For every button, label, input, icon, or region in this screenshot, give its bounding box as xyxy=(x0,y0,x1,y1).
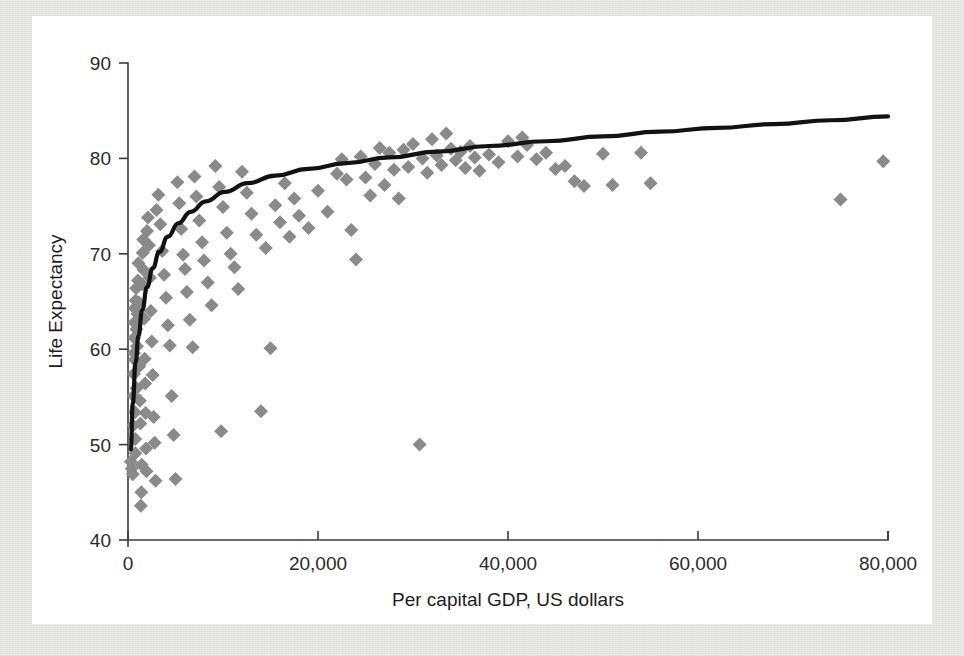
data-point xyxy=(378,178,392,192)
data-point xyxy=(245,207,259,221)
data-point xyxy=(180,285,194,299)
data-point xyxy=(473,164,487,178)
data-point xyxy=(205,298,219,312)
data-point xyxy=(292,209,306,223)
data-point xyxy=(349,253,363,267)
data-point xyxy=(283,230,297,244)
data-point xyxy=(254,404,268,418)
data-point xyxy=(186,340,200,354)
y-tick-label: 70 xyxy=(90,244,111,265)
data-point xyxy=(172,196,186,210)
data-point xyxy=(157,268,171,282)
data-point xyxy=(176,248,190,262)
data-point xyxy=(259,241,273,255)
data-point xyxy=(178,262,192,276)
data-point xyxy=(169,472,183,486)
scatter-plot: 405060708090 020,00040,00060,00080,000 P… xyxy=(32,16,932,624)
data-point xyxy=(344,223,358,237)
data-point xyxy=(302,221,316,235)
data-point xyxy=(151,188,165,202)
y-tick-label: 80 xyxy=(90,148,111,169)
x-axis-title: Per capital GDP, US dollars xyxy=(392,589,624,610)
data-point xyxy=(224,247,238,261)
data-point xyxy=(134,485,148,499)
data-point xyxy=(214,424,228,438)
data-point xyxy=(634,146,648,160)
data-point xyxy=(876,154,890,168)
data-point xyxy=(359,170,373,184)
data-point xyxy=(387,163,401,177)
data-point xyxy=(195,235,209,249)
data-point xyxy=(834,192,848,206)
data-point xyxy=(216,200,230,214)
trend-line xyxy=(131,116,888,449)
data-point xyxy=(231,282,245,296)
data-point xyxy=(606,178,620,192)
data-point xyxy=(235,165,249,179)
data-point xyxy=(183,313,197,327)
data-point xyxy=(188,170,202,184)
y-tick-label: 90 xyxy=(90,53,111,74)
figure-page: 405060708090 020,00040,00060,00080,000 P… xyxy=(0,0,964,656)
data-point xyxy=(363,189,377,203)
data-point xyxy=(439,127,453,141)
data-point xyxy=(197,253,211,267)
data-point xyxy=(413,438,427,452)
x-tick-label: 40,000 xyxy=(479,553,537,574)
data-point xyxy=(145,335,159,349)
data-point xyxy=(425,132,439,146)
y-tick-group: 405060708090 xyxy=(90,53,128,551)
y-tick-label: 40 xyxy=(90,530,111,551)
x-tick-group: 020,00040,00060,00080,000 xyxy=(123,531,917,574)
data-point xyxy=(163,338,177,352)
data-point xyxy=(273,215,287,229)
data-point xyxy=(167,428,181,442)
data-point xyxy=(249,228,263,242)
data-point xyxy=(492,155,506,169)
data-point xyxy=(208,159,222,173)
data-point xyxy=(192,213,206,227)
data-point xyxy=(278,176,292,190)
data-point xyxy=(596,147,610,161)
x-tick-label: 60,000 xyxy=(669,553,727,574)
data-point xyxy=(161,318,175,332)
data-point xyxy=(511,149,525,163)
data-point xyxy=(220,226,234,240)
data-point xyxy=(420,166,434,180)
data-point xyxy=(240,186,254,200)
data-point xyxy=(401,160,415,174)
x-tick-label: 20,000 xyxy=(289,553,347,574)
chart-figure: 405060708090 020,00040,00060,00080,000 P… xyxy=(32,16,932,624)
data-point xyxy=(165,389,179,403)
data-point xyxy=(149,474,163,488)
y-axis-title: Life Expectancy xyxy=(45,234,66,369)
data-point xyxy=(159,291,173,305)
data-point xyxy=(644,176,658,190)
data-point xyxy=(134,499,148,513)
data-point xyxy=(268,198,282,212)
data-point xyxy=(287,191,301,205)
data-point xyxy=(321,205,335,219)
data-point xyxy=(170,175,184,189)
data-point xyxy=(311,184,325,198)
data-point xyxy=(264,341,278,355)
data-point xyxy=(153,217,167,231)
x-tick-label: 80,000 xyxy=(859,553,917,574)
data-point xyxy=(458,161,472,175)
data-point xyxy=(392,191,406,205)
x-tick-label: 0 xyxy=(123,553,134,574)
y-tick-label: 60 xyxy=(90,339,111,360)
data-point xyxy=(201,275,215,289)
data-point xyxy=(227,260,241,274)
y-tick-label: 50 xyxy=(90,435,111,456)
data-point xyxy=(482,148,496,162)
